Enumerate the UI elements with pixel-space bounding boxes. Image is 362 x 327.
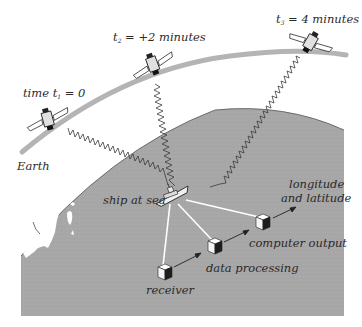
gps-diagram: time t1 = 0 t2 = +2 minutes t3 = 4 minut…: [0, 0, 362, 327]
computer-output-cube: [256, 214, 270, 230]
diagram-canvas: [0, 0, 362, 327]
satellite-3-label: t3 = 4 minutes: [276, 13, 359, 27]
satellite-1-label: time t1 = 0: [23, 87, 85, 101]
satellite-2-label: t2 = +2 minutes: [113, 31, 206, 45]
satellite-3-icon: [286, 22, 335, 63]
ship-label: ship at sea: [103, 194, 166, 207]
output-label-line2: and latitude: [281, 192, 351, 205]
earth-label: Earth: [17, 160, 50, 173]
computer-output-label: computer output: [249, 237, 347, 250]
data-processing-label: data processing: [206, 262, 299, 275]
data-processing-cube: [208, 238, 222, 254]
receiver-label: receiver: [146, 284, 194, 297]
earth-pointer-line: [33, 222, 40, 234]
output-label-line1: longitude: [289, 178, 344, 191]
receiver-cube: [158, 264, 172, 280]
